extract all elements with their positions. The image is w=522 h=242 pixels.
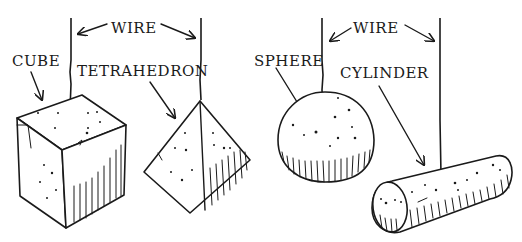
wire-tetrahedron	[200, 18, 201, 100]
wire-arrow-left-a	[78, 24, 107, 34]
cylinder-arrow	[379, 86, 424, 165]
tetrahedron-arrow	[150, 82, 175, 118]
tetrahedron-shape	[144, 101, 250, 213]
cube-shape	[17, 95, 126, 228]
cube-label: CUBE	[12, 52, 60, 70]
left-wire-label-group: WIRE	[78, 19, 195, 38]
wire-arrow-right-b	[405, 25, 434, 41]
sphere-shape	[278, 92, 374, 182]
cylinder-label: CYLINDER	[340, 64, 429, 82]
illustration-canvas: WIRE CUBE TETRAHEDRON	[0, 0, 522, 242]
sphere-label: SPHERE	[254, 52, 324, 70]
wire-cylinder	[440, 18, 441, 175]
right-wire-label-group: WIRE	[330, 19, 434, 41]
wire-arrow-right-a	[330, 28, 351, 41]
wire-label-left: WIRE	[111, 19, 157, 37]
wire-label-right: WIRE	[353, 19, 399, 37]
tetrahedron-label: TETRAHEDRON	[77, 62, 208, 80]
cube-arrow	[31, 72, 42, 100]
wire-arrow-left-b	[161, 24, 195, 38]
shapes-on-wires-illustration: WIRE CUBE TETRAHEDRON	[0, 0, 522, 242]
